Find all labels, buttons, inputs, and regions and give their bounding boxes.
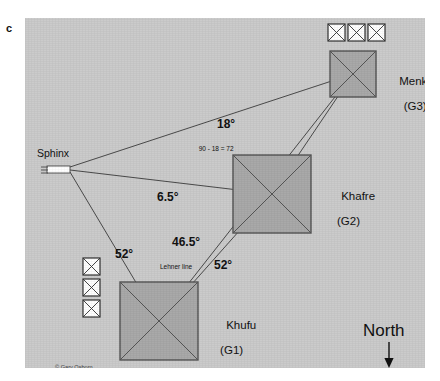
label-khufu-designation: (G1) — [207, 344, 256, 357]
label-angle-52-right: 52° — [194, 246, 232, 286]
label-angle-52-left-value: 52° — [115, 247, 133, 261]
north-label: North — [363, 321, 405, 341]
satellite-pyramid — [368, 24, 385, 41]
pyramid-menkaure — [330, 51, 376, 97]
label-khafre: Khafre (G2) — [322, 177, 375, 253]
satellite-pyramid — [83, 279, 100, 296]
diagram-panel: Sphinx Menkaure (G3) Khafre (G2) Khufu (… — [25, 18, 425, 368]
satellite-pyramid — [83, 300, 100, 317]
label-angle-52-right-value: 52° — [214, 258, 232, 272]
label-angle-18: 18° 90 - 18 = 72 — [197, 105, 235, 178]
satellite-pyramid — [348, 24, 365, 41]
label-khafre-name: Khafre — [341, 190, 375, 202]
label-sphinx: Sphinx — [37, 148, 69, 160]
credit-text: © Gary Osborn — [55, 364, 93, 368]
satellites-menkaure — [328, 24, 385, 41]
label-khufu-name: Khufu — [226, 319, 256, 331]
label-angle-46-5-note: Lehner line — [152, 263, 200, 270]
figure-container: c — [0, 0, 440, 381]
label-angle-46-5: 46.5° Lehner line — [152, 223, 200, 296]
label-angle-18-value: 18° — [217, 117, 235, 131]
label-angle-52-left: 52° — [95, 235, 133, 275]
pyramid-khafre — [233, 155, 311, 233]
label-menkaure-name: Menkaure — [399, 75, 425, 87]
label-angle-6-5-value: 6.5° — [157, 190, 178, 204]
label-menkaure: Menkaure (G3) — [380, 62, 425, 138]
sphinx-marker — [41, 166, 70, 173]
label-angle-6-5: 6.5° — [137, 178, 179, 218]
panel-letter-label: c — [6, 22, 12, 34]
arrow-down-icon — [381, 342, 397, 368]
label-khufu: Khufu (G1) — [207, 306, 256, 368]
satellite-pyramid — [328, 24, 345, 41]
label-angle-18-note: 90 - 18 = 72 — [197, 145, 235, 152]
label-khafre-designation: (G2) — [322, 215, 375, 228]
label-menkaure-designation: (G3) — [380, 100, 425, 113]
